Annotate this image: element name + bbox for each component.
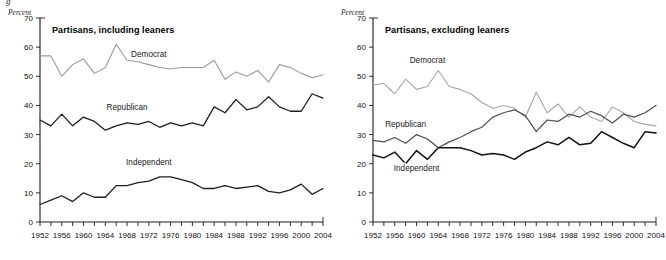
x-tick-label-left: 1964 bbox=[96, 231, 114, 240]
x-tick-label-left: 1976 bbox=[162, 231, 180, 240]
series-label-independent-left: Independent bbox=[126, 158, 172, 167]
y-tick-label-left: 40 bbox=[24, 101, 33, 110]
y-tick-label-left: 70 bbox=[24, 14, 33, 23]
y-tick-label-right: 50 bbox=[357, 72, 366, 81]
series-line-independent-right bbox=[373, 132, 656, 164]
series-label-democrat-left: Democrat bbox=[131, 50, 167, 59]
x-tick-label-right: 1960 bbox=[408, 231, 426, 240]
x-tick-label-right: 1972 bbox=[473, 231, 491, 240]
x-tick-label-left: 1972 bbox=[140, 231, 158, 240]
x-tick-label-right: 1988 bbox=[560, 231, 578, 240]
y-tick-label-left: 30 bbox=[24, 131, 33, 140]
y-tick-label-left: 60 bbox=[24, 43, 33, 52]
x-tick-label-right: 1964 bbox=[429, 231, 447, 240]
series-label-republican-left: Republican bbox=[107, 103, 148, 112]
chart-svg-right: 0102030405060701952195619601964196819721… bbox=[333, 0, 666, 260]
x-tick-label-left: 1980 bbox=[183, 231, 201, 240]
chart-panel-excluding-leaners: Percent Partisans, excluding leaners 010… bbox=[333, 0, 666, 260]
series-label-democrat-right: Democrat bbox=[410, 56, 446, 65]
y-tick-label-right: 60 bbox=[357, 43, 366, 52]
x-tick-label-right: 1956 bbox=[386, 231, 404, 240]
y-tick-label-left: 0 bbox=[29, 218, 34, 227]
chart-svg-left: 0102030405060701952195619601964196819721… bbox=[0, 0, 333, 260]
x-tick-label-left: 1960 bbox=[75, 231, 93, 240]
x-tick-label-left: 1968 bbox=[118, 231, 136, 240]
x-tick-label-right: 1984 bbox=[538, 231, 556, 240]
x-tick-label-left: 1984 bbox=[205, 231, 223, 240]
y-tick-label-left: 50 bbox=[24, 72, 33, 81]
x-tick-label-right: 1976 bbox=[495, 231, 513, 240]
series-line-republican-left bbox=[40, 94, 323, 130]
partisanship-figure: g Percent Partisans, including leaners 0… bbox=[0, 0, 666, 260]
x-tick-label-right: 1968 bbox=[451, 231, 469, 240]
x-tick-label-left: 1992 bbox=[249, 231, 267, 240]
y-tick-label-right: 10 bbox=[357, 189, 366, 198]
x-tick-label-right: 2000 bbox=[625, 231, 643, 240]
series-line-independent-left bbox=[40, 177, 323, 205]
x-tick-label-right: 1996 bbox=[604, 231, 622, 240]
x-tick-label-left: 2000 bbox=[292, 231, 310, 240]
x-tick-label-left: 2004 bbox=[314, 231, 332, 240]
series-line-democrat-right bbox=[373, 70, 656, 125]
x-tick-label-right: 1952 bbox=[364, 231, 382, 240]
chart-panel-including-leaners: Percent Partisans, including leaners 010… bbox=[0, 0, 333, 260]
series-label-republican-right: Republican bbox=[385, 120, 426, 129]
y-tick-label-left: 10 bbox=[24, 189, 33, 198]
y-tick-label-right: 20 bbox=[357, 160, 366, 169]
x-tick-label-left: 1956 bbox=[53, 231, 71, 240]
x-tick-label-left: 1996 bbox=[271, 231, 289, 240]
y-tick-label-right: 40 bbox=[357, 101, 366, 110]
series-line-democrat-left bbox=[40, 44, 323, 82]
x-tick-label-right: 2004 bbox=[647, 231, 665, 240]
x-tick-label-left: 1952 bbox=[31, 231, 49, 240]
y-tick-label-right: 70 bbox=[357, 14, 366, 23]
y-tick-label-right: 30 bbox=[357, 131, 366, 140]
x-tick-label-left: 1988 bbox=[227, 231, 245, 240]
y-tick-label-left: 20 bbox=[24, 160, 33, 169]
x-tick-label-right: 1980 bbox=[516, 231, 534, 240]
series-label-independent-right: Independent bbox=[394, 164, 440, 173]
y-tick-label-right: 0 bbox=[362, 218, 367, 227]
x-tick-label-right: 1992 bbox=[582, 231, 600, 240]
